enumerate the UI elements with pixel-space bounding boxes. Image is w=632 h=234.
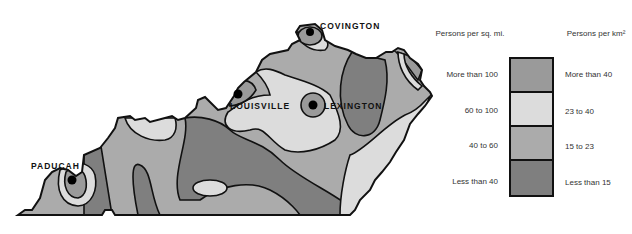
legend-swatch-40-to-60 xyxy=(509,125,554,161)
louisville-dot xyxy=(234,90,243,99)
legend-label-km2-1: 23 to 40 xyxy=(565,107,594,116)
legend-header-km2: Persons per km² xyxy=(560,28,632,40)
legend-label-sq-mi-3: Less than 40 xyxy=(452,177,498,186)
legend-label-sq-mi-1: 60 to 100 xyxy=(465,106,498,115)
covington-dot xyxy=(306,28,314,36)
legend-header-sq-mi: Persons per sq. mi. xyxy=(430,28,510,40)
legend-label-sq-mi-0: More than 100 xyxy=(446,70,498,79)
city-label-covington: COVINGTON xyxy=(320,21,380,31)
lexington-dot xyxy=(309,101,318,110)
legend-swatch-more-than-100 xyxy=(509,57,554,93)
city-label-louisville: LOUISVILLE xyxy=(230,101,290,111)
city-label-paducah: PADUCAH xyxy=(31,161,80,171)
paducah-dot xyxy=(68,176,77,185)
legend-label-km2-3: Less than 15 xyxy=(565,178,611,187)
legend-label-km2-2: 15 to 23 xyxy=(565,142,594,151)
legend-label-sq-mi-2: 40 to 60 xyxy=(469,141,498,150)
legend-swatch-less-than-40 xyxy=(509,159,554,197)
city-label-lexington: LEXINGTON xyxy=(324,101,382,111)
legend-swatch-60-to-100 xyxy=(509,91,554,127)
legend-label-km2-0: More than 40 xyxy=(565,70,612,79)
